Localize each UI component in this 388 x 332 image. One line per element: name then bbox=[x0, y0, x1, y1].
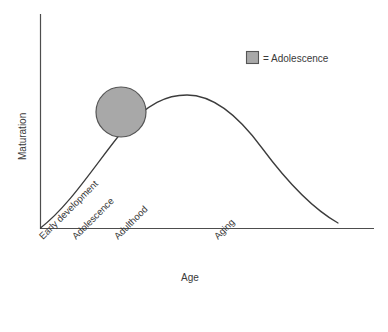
adolescence-highlight-circle bbox=[96, 87, 146, 137]
x-tick-label-adulthood: Adulthood bbox=[112, 203, 150, 241]
x-tick-label-early-development: Early development bbox=[37, 178, 101, 242]
legend-swatch-adolescence bbox=[247, 52, 259, 64]
chart-container: = Adolescence Maturation Age Early devel… bbox=[0, 0, 388, 332]
maturation-lifespan-chart: = Adolescence Maturation Age Early devel… bbox=[0, 0, 388, 332]
legend: = Adolescence bbox=[247, 52, 329, 64]
y-axis-title: Maturation bbox=[17, 113, 28, 160]
legend-label-adolescence: = Adolescence bbox=[263, 53, 329, 64]
x-axis-title: Age bbox=[181, 272, 199, 283]
maturation-curve bbox=[41, 95, 339, 228]
